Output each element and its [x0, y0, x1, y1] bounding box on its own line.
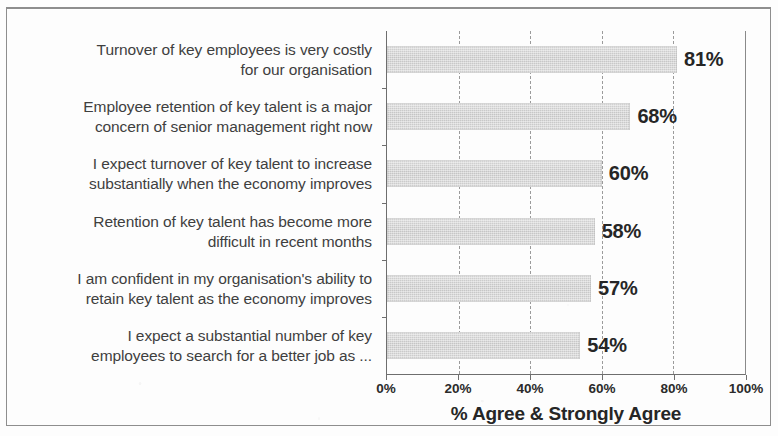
bar-value-label: 81% — [684, 48, 723, 71]
bar-row: 81% — [387, 31, 745, 88]
bar-row: 57% — [387, 260, 745, 317]
bar-chart-figure: Turnover of key employees is very costly… — [0, 0, 778, 436]
x-axis-tick — [530, 375, 531, 380]
y-axis-tick — [382, 260, 387, 261]
bar — [387, 103, 630, 130]
chart-plot-container: Turnover of key employees is very costly… — [8, 9, 770, 425]
bar-row: 58% — [387, 203, 745, 260]
category-label: I am confident in my organisation's abil… — [8, 260, 380, 317]
x-axis-tick — [602, 375, 603, 380]
y-axis-tick — [382, 317, 387, 318]
bar — [387, 218, 595, 245]
category-label: I expect turnover of key talent to incre… — [8, 146, 380, 203]
bar-row: 60% — [387, 145, 745, 202]
x-axis-tick-label: 20% — [444, 381, 471, 396]
category-label: Turnover of key employees is very costly… — [8, 31, 380, 88]
x-axis-tick — [386, 375, 387, 380]
category-label: Employee retention of key talent is a ma… — [8, 88, 380, 145]
bar-series: 81%68%60%58%57%54% — [387, 31, 745, 374]
x-axis-tick-label: 60% — [588, 381, 615, 396]
bar-value-label: 54% — [587, 334, 626, 357]
category-label: Retention of key talent has become more … — [8, 203, 380, 260]
x-axis-tick-label: 40% — [516, 381, 543, 396]
bar — [387, 160, 602, 187]
x-axis-tick — [458, 375, 459, 380]
category-axis-labels: Turnover of key employees is very costly… — [8, 31, 380, 375]
x-axis-tick — [746, 375, 747, 380]
plot-area: 81%68%60%58%57%54% — [386, 31, 746, 375]
bar-value-label: 68% — [637, 105, 676, 128]
bar — [387, 275, 591, 302]
bar-value-label: 58% — [602, 220, 641, 243]
x-axis-tick-label: 100% — [729, 381, 764, 396]
bar — [387, 332, 580, 359]
bar — [387, 46, 677, 73]
y-axis-tick — [382, 145, 387, 146]
bar-value-label: 57% — [598, 277, 637, 300]
x-axis-tick-label: 0% — [376, 381, 396, 396]
category-label: I expect a substantial number of key emp… — [8, 318, 380, 375]
x-axis-title: % Agree & Strongly Agree — [386, 403, 746, 425]
x-axis-tick — [674, 375, 675, 380]
bar-row: 54% — [387, 317, 745, 374]
x-axis-tick-labels: 0%20%40%60%80%100% — [386, 381, 746, 401]
x-axis-tick-label: 80% — [660, 381, 687, 396]
y-axis-tick — [382, 203, 387, 204]
bar-row: 68% — [387, 88, 745, 145]
bar-value-label: 60% — [609, 162, 648, 185]
y-axis-tick — [382, 88, 387, 89]
